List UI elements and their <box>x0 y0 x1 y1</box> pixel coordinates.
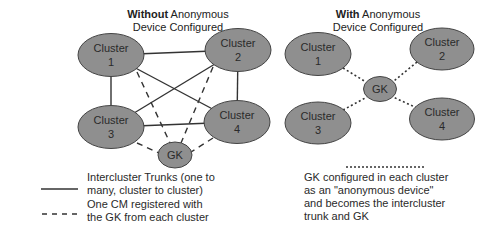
left-node-cluster-1: Cluster 1 <box>78 34 144 77</box>
legend-dotted-line2: as an "anonymous device" <box>304 184 434 196</box>
svg-text:Cluster: Cluster <box>220 109 255 121</box>
legend-dotted-text: GK configured in each cluster as an "ano… <box>304 171 448 223</box>
legend-dashed-line2: the GK from each cluster <box>87 211 209 223</box>
right-node-cluster-4: Cluster 4 <box>410 98 475 140</box>
right-node-cluster-1: Cluster 1 <box>285 33 351 76</box>
svg-text:3: 3 <box>315 124 321 136</box>
svg-text:Cluster: Cluster <box>301 110 336 122</box>
right-node-gk: GK <box>364 77 397 102</box>
svg-text:2: 2 <box>235 51 241 63</box>
dot-c1-gk <box>343 68 366 82</box>
svg-text:Cluster: Cluster <box>94 114 129 126</box>
svg-text:1: 1 <box>315 55 321 67</box>
right-node-cluster-3: Cluster 3 <box>285 102 351 144</box>
legend-solid-line1: Intercluster Trunks (one to <box>87 171 215 183</box>
dot-c4-gk <box>393 97 417 108</box>
svg-text:Cluster: Cluster <box>301 41 336 53</box>
left-node-cluster-2: Cluster 2 <box>205 29 271 72</box>
svg-text:GK: GK <box>372 83 389 95</box>
legend-dashed-line1: One CM registered with <box>87 198 203 210</box>
svg-text:Cluster: Cluster <box>221 37 256 49</box>
right-node-cluster-2: Cluster 2 <box>410 28 474 70</box>
legend-dashed-text: One CM registered with the GK from each … <box>87 198 209 224</box>
svg-text:Cluster: Cluster <box>94 42 129 54</box>
svg-text:3: 3 <box>108 128 114 140</box>
legend-dotted-line4: trunk and GK <box>304 210 369 222</box>
dot-c2-gk <box>394 62 417 81</box>
legend-dotted-line3: and becomes the intercluster <box>304 197 445 209</box>
left-dashed-links <box>137 67 213 153</box>
svg-text:4: 4 <box>439 120 445 132</box>
left-node-cluster-4: Cluster 4 <box>204 101 270 144</box>
dot-c3-gk <box>343 97 367 110</box>
left-node-cluster-3: Cluster 3 <box>78 106 144 149</box>
svg-text:2: 2 <box>439 50 445 62</box>
svg-text:1: 1 <box>108 56 114 68</box>
svg-text:Cluster: Cluster <box>425 36 460 48</box>
left-node-gk: GK <box>158 142 192 168</box>
legend-solid-text: Intercluster Trunks (one to many, cluste… <box>87 171 215 197</box>
dash-c4-gk <box>191 138 213 152</box>
svg-text:4: 4 <box>234 123 240 135</box>
svg-text:GK: GK <box>167 149 184 161</box>
svg-text:Cluster: Cluster <box>425 106 460 118</box>
legend-dotted-line1: GK configured in each cluster <box>304 171 448 183</box>
dash-c3-gk <box>137 143 159 153</box>
legend-solid-line2: many, cluster to cluster) <box>87 184 203 196</box>
